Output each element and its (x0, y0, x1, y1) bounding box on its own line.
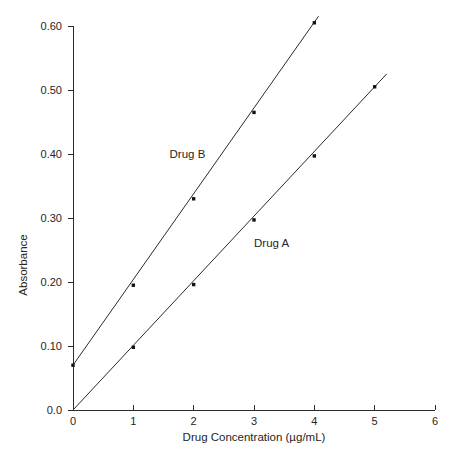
y-tick-label: 0.10 (41, 340, 62, 352)
series-drug-b (71, 16, 318, 367)
series-drug-a (73, 74, 387, 410)
chart-figure: 0.00.100.200.300.400.500.60 0123456 Drug… (0, 0, 463, 468)
y-tick-label: 0.50 (41, 84, 62, 96)
x-tick-label: 2 (191, 415, 197, 427)
series-annotation-label: Drug A (254, 237, 289, 249)
data-point-marker (252, 111, 255, 114)
x-tick-label: 3 (251, 415, 257, 427)
data-point-marker (192, 283, 195, 286)
data-point-marker (132, 284, 135, 287)
y-tick-label: 0.20 (41, 276, 62, 288)
y-axis-title: Absorbance (17, 234, 29, 295)
data-point-marker (373, 85, 376, 88)
data-point-marker (313, 154, 316, 157)
absorbance-line-chart: 0.00.100.200.300.400.500.60 0123456 Drug… (0, 0, 463, 468)
y-axis-ticks: 0.00.100.200.300.400.500.60 (41, 20, 73, 416)
data-point-marker (313, 21, 316, 24)
x-tick-label: 5 (372, 415, 378, 427)
series-annotation-label: Drug B (170, 148, 206, 160)
y-tick-label: 0.60 (41, 20, 62, 32)
series-line (73, 74, 387, 410)
data-point-marker (252, 218, 255, 221)
data-point-marker (71, 364, 74, 367)
x-tick-label: 4 (311, 415, 317, 427)
x-axis-title: Drug Concentration (µg/mL) (183, 431, 326, 443)
x-tick-label: 1 (130, 415, 136, 427)
x-tick-label: 6 (432, 415, 438, 427)
y-tick-label: 0.30 (41, 212, 62, 224)
data-series-group (71, 16, 386, 410)
y-tick-label: 0.40 (41, 148, 62, 160)
data-point-marker (132, 346, 135, 349)
y-tick-label: 0.0 (47, 404, 62, 416)
x-tick-label: 0 (70, 415, 76, 427)
x-axis-ticks: 0123456 (70, 405, 438, 427)
data-point-marker (192, 197, 195, 200)
series-annotations: Drug BDrug A (170, 148, 290, 248)
series-line (73, 16, 319, 365)
